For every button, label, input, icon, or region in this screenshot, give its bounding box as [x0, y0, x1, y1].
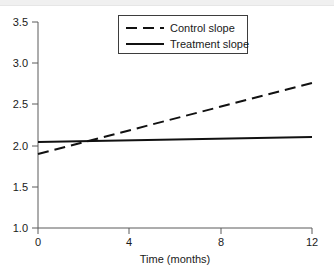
legend-label-treatment-slope: Treatment slope	[170, 38, 249, 50]
x-tick-label-12: 12	[306, 236, 318, 248]
x-axis-ticks	[38, 228, 312, 234]
x-tick-label-8: 8	[218, 236, 224, 248]
x-axis-title: Time (months)	[140, 253, 211, 265]
series-line-treatment-slope	[38, 137, 312, 142]
series-line-control-slope	[38, 83, 312, 154]
y-tick-label-3.5: 3.5	[13, 16, 28, 28]
y-tick-label-1.5: 1.5	[13, 181, 28, 193]
line-chart-canvas: 3.5 3.0 2.5 2.0 1.5 1.0 0 4 8 12 Time (m…	[0, 0, 334, 269]
legend-label-control-slope: Control slope	[170, 22, 235, 34]
y-axis-tick-labels: 3.5 3.0 2.5 2.0 1.5 1.0	[13, 16, 28, 234]
y-tick-label-1.0: 1.0	[13, 222, 28, 234]
x-tick-label-4: 4	[126, 236, 132, 248]
y-tick-label-3.0: 3.0	[13, 57, 28, 69]
y-tick-label-2.5: 2.5	[13, 98, 28, 110]
y-tick-label-2.0: 2.0	[13, 140, 28, 152]
y-axis-ticks	[32, 22, 38, 228]
x-tick-label-0: 0	[35, 236, 41, 248]
chart-legend[interactable]: Control slope Treatment slope	[119, 16, 250, 54]
chart-figure: 3.5 3.0 2.5 2.0 1.5 1.0 0 4 8 12 Time (m…	[0, 0, 334, 269]
x-axis-tick-labels: 0 4 8 12	[35, 236, 318, 248]
